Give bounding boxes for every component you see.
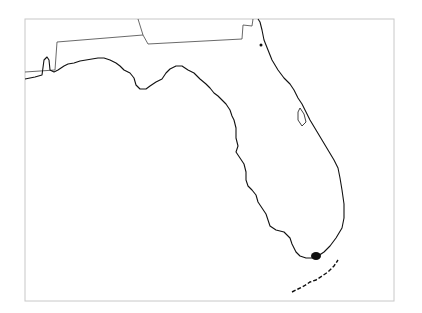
florida-coastline — [25, 19, 344, 258]
state-border-line — [25, 19, 253, 72]
florida-keys — [292, 260, 338, 292]
florida-map — [0, 0, 422, 313]
lake-okeechobee — [311, 252, 321, 260]
location-dot — [260, 44, 263, 47]
